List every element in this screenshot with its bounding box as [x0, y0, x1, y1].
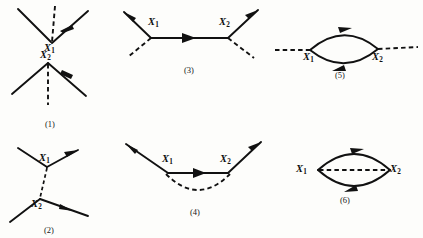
diagram-4-caption: (4) — [190, 208, 200, 217]
diagram-5-loop-upper-arc — [310, 35, 378, 50]
diagram-3-arrowhead-upper-right — [245, 10, 258, 19]
diagram-3-vertex-label-x1: X1 — [148, 17, 159, 28]
diagram-5-loop-lower-arc — [310, 49, 378, 63]
diagram-5-caption: (5) — [335, 71, 345, 80]
diagram-2-vertex-label-x1: X1 — [39, 153, 50, 164]
diagram-3: X1 X2 (3) — [118, 0, 278, 85]
diagram-1-arrowhead-lower-right — [60, 70, 73, 79]
diagram-2-dashed-internal-line — [40, 168, 47, 198]
diagram-1-vertex-label-x2: X2 — [40, 50, 51, 61]
diagram-1-caption: (1) — [45, 120, 55, 129]
diagram-3-caption: (3) — [184, 66, 194, 75]
diagram-3-dashed-line-lower-right — [228, 38, 254, 58]
diagram-4-arrowhead-upper-left — [126, 144, 138, 154]
diagram-3-arrowhead-internal — [182, 33, 196, 43]
diagram-6-arrowhead-upper-arc — [350, 148, 364, 154]
diagram-6: X1 X2 (6) — [268, 140, 423, 238]
diagram-4-vertex-label-x1: X1 — [162, 154, 173, 165]
diagram-5-vertex-label-x1: X1 — [303, 52, 314, 63]
diagram-1-arrowhead-upper-right — [60, 25, 74, 33]
diagram-1-solid-line-lower-left — [12, 63, 48, 94]
diagram-4-dashed-arc — [166, 174, 230, 190]
diagram-6-vertex-label-x1: X1 — [296, 164, 307, 175]
figure-canvas: X1 X2 (1) X1 X2 (2) — [0, 0, 423, 238]
diagram-5-vertex-label-x2: X2 — [372, 52, 383, 63]
diagram-3-vertex-label-x2: X2 — [219, 17, 230, 28]
diagram-1-dashed-line-upper — [52, 6, 55, 42]
diagram-1-solid-line-lower-right — [48, 63, 86, 96]
diagram-5-dashed-line-right — [378, 47, 418, 49]
diagram-4-vertex-label-x2: X2 — [220, 154, 231, 165]
diagram-6-loop-lower-arc — [318, 170, 390, 186]
diagram-2-vertex-label-x2: X2 — [31, 199, 42, 210]
diagram-2-caption: (2) — [44, 226, 54, 235]
diagram-2-arrowhead-lower-right — [59, 204, 73, 211]
diagram-3-dashed-line-lower-left — [128, 38, 151, 57]
diagram-5-arrowhead-upper-arc — [338, 27, 352, 33]
diagram-3-arrowhead-upper-left — [124, 12, 136, 22]
diagram-6-vertex-label-x2: X2 — [390, 164, 401, 175]
diagram-6-caption: (6) — [340, 196, 350, 205]
diagram-1-solid-line-upper-left — [18, 9, 51, 42]
diagram-4: X1 X2 (4) — [118, 140, 278, 238]
diagram-6-loop-upper-arc — [318, 154, 390, 170]
diagram-4-arrowhead-upper-right — [248, 142, 261, 151]
diagram-4-arrowhead-internal — [193, 168, 206, 178]
diagram-5: X1 X2 (5) — [268, 0, 423, 90]
